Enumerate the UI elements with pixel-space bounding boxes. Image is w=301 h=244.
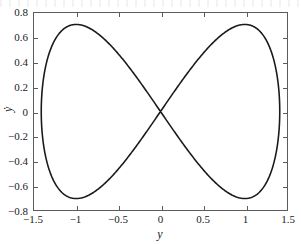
x-tick-mark [247, 13, 248, 17]
y-tick-mark [34, 88, 38, 89]
scan-noise-artifact [0, 0, 301, 7]
y-tick-label: 0.6 [0, 31, 28, 42]
x-tick-mark [119, 13, 120, 17]
x-tick-label: 1 [243, 214, 249, 225]
x-tick-label: −0.5 [108, 214, 128, 225]
y-tick-mark [283, 137, 287, 138]
y-tick-label: 0.8 [0, 7, 28, 18]
y-tick-label: 0.4 [0, 56, 28, 67]
x-tick-mark [77, 206, 78, 210]
x-tick-label: 0.5 [196, 214, 210, 225]
y-tick-mark [34, 187, 38, 188]
y-tick-mark [283, 162, 287, 163]
x-tick-mark [247, 206, 248, 210]
y-tick-label: −0.6 [0, 181, 28, 192]
y-tick-mark [283, 38, 287, 39]
figure-eight-orbit-path [41, 24, 279, 198]
y-tick-mark [283, 187, 287, 188]
x-tick-mark [204, 13, 205, 17]
x-tick-label: 1.5 [281, 214, 295, 225]
x-tick-label: 0 [158, 214, 164, 225]
y-tick-mark [283, 63, 287, 64]
x-tick-label: −1 [70, 214, 82, 225]
y-tick-mark [283, 113, 287, 114]
y-tick-mark [34, 137, 38, 138]
y-tick-mark [34, 38, 38, 39]
x-tick-mark [162, 206, 163, 210]
y-axis-title: ẏ [2, 107, 14, 112]
y-tick-mark [283, 88, 287, 89]
y-tick-label: −0.2 [0, 131, 28, 142]
y-tick-mark [34, 63, 38, 64]
x-axis-title: y [157, 228, 162, 240]
x-tick-mark [162, 13, 163, 17]
x-tick-mark [77, 13, 78, 17]
phase-portrait-figure: −1.5−1−0.500.511.50.80.60.40.20−0.2−0.4−… [0, 0, 301, 244]
x-tick-mark [119, 206, 120, 210]
y-tick-mark [34, 162, 38, 163]
y-tick-label: 0.2 [0, 81, 28, 92]
orbit-curve-svg [34, 13, 287, 210]
y-tick-mark [34, 113, 38, 114]
y-tick-label: −0.4 [0, 156, 28, 167]
x-tick-mark [204, 206, 205, 210]
y-tick-label: −0.8 [0, 206, 28, 217]
plot-area [33, 12, 288, 211]
